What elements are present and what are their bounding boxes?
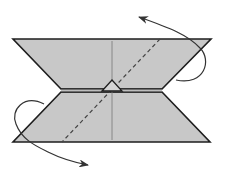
diagram-canvas bbox=[0, 0, 226, 182]
origami-diagram bbox=[0, 0, 226, 182]
paper-bottom-half bbox=[13, 92, 210, 142]
